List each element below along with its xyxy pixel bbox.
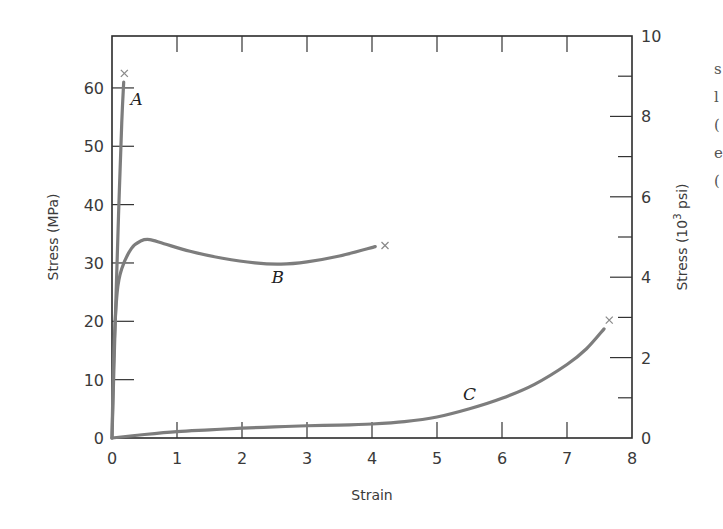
curve-label-b: B <box>271 267 285 287</box>
curve-label-c: C <box>463 384 476 404</box>
curve-label-a: A <box>129 89 143 109</box>
fracture-marker-b <box>382 242 389 249</box>
y-tick-label-right: 0 <box>641 429 651 448</box>
page-text-fragment: l <box>714 88 719 106</box>
curves <box>112 70 613 438</box>
x-tick-label: 5 <box>432 449 442 468</box>
page-text-fragment: e <box>714 144 723 162</box>
y-axis-title-left: Stress (MPa) <box>45 194 61 281</box>
y-tick-label-right: 4 <box>641 268 651 287</box>
curve-b <box>112 239 375 438</box>
page-text-fragment: ( <box>714 116 720 134</box>
y-tick-label-left: 40 <box>84 196 104 215</box>
page-text-fragment: s <box>714 60 722 78</box>
x-tick-label: 4 <box>367 449 377 468</box>
y-tick-label-left: 60 <box>84 79 104 98</box>
x-tick-label: 0 <box>107 449 117 468</box>
x-tick-label: 6 <box>497 449 507 468</box>
plot-frame <box>112 36 632 438</box>
curve-c <box>112 329 604 438</box>
x-tick-label: 7 <box>562 449 572 468</box>
x-tick-label: 3 <box>302 449 312 468</box>
y-tick-label-left: 50 <box>84 137 104 156</box>
x-tick-label: 2 <box>237 449 247 468</box>
y-tick-label-left: 30 <box>84 254 104 273</box>
y-tick-label-right: 2 <box>641 349 651 368</box>
plot-border <box>112 36 632 438</box>
y-tick-label-right: 10 <box>641 27 661 46</box>
page-text-fragment: ( <box>714 172 720 190</box>
y-tick-label-right: 6 <box>641 188 651 207</box>
x-axis-title: Strain <box>351 487 392 503</box>
x-tick-label: 1 <box>172 449 182 468</box>
y-tick-label-left: 20 <box>84 312 104 331</box>
x-tick-label: 8 <box>627 449 637 468</box>
fracture-marker-c <box>606 317 613 324</box>
curve-labels: ABC <box>129 89 476 404</box>
stress-strain-chart: 01234567801020304050600246810 ABC Strain… <box>0 0 723 529</box>
y-tick-label-right: 8 <box>641 107 651 126</box>
y-tick-label-left: 10 <box>84 371 104 390</box>
y-tick-label-left: 0 <box>94 429 104 448</box>
axis-ticks <box>112 36 632 438</box>
fracture-marker-a <box>121 70 128 77</box>
y-axis-title-right: Stress (103 psi) <box>672 183 690 290</box>
